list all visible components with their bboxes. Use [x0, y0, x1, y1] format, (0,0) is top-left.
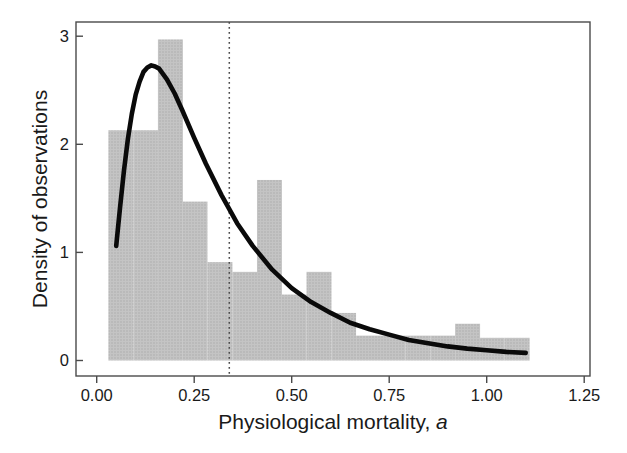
- histogram-bar: [183, 202, 208, 361]
- histogram-bar: [108, 130, 133, 360]
- x-axis-tick-label: 1.00: [471, 386, 503, 404]
- x-axis-title: Physiological mortality, a: [218, 410, 448, 433]
- histogram-bar: [257, 180, 282, 361]
- x-axis-tick-label: 1.25: [568, 386, 600, 404]
- histogram-bar: [307, 272, 332, 361]
- x-axis-tick-label: 0.75: [373, 386, 405, 404]
- y-axis-tick-label: 3: [60, 27, 69, 45]
- histogram-bar: [505, 338, 530, 361]
- histogram-bar: [207, 262, 232, 360]
- histogram-bar: [356, 336, 381, 361]
- y-axis-tick-label: 0: [60, 351, 69, 369]
- x-axis-tick-label: 0.50: [276, 386, 308, 404]
- histogram-bar: [282, 295, 307, 361]
- chart-figure: 0.000.250.500.751.001.250123Physiologica…: [0, 0, 627, 453]
- histogram-bar: [232, 272, 257, 361]
- histogram-bar: [455, 324, 480, 361]
- histogram-bar: [133, 130, 158, 360]
- y-axis-title: Density of observations: [28, 90, 51, 308]
- x-axis-tick-label: 0.25: [178, 386, 210, 404]
- y-axis-tick-label: 1: [60, 243, 69, 261]
- x-axis-tick-label: 0.00: [81, 386, 113, 404]
- y-axis-tick-label: 2: [60, 135, 69, 153]
- histogram-chart: 0.000.250.500.751.001.250123Physiologica…: [0, 0, 627, 453]
